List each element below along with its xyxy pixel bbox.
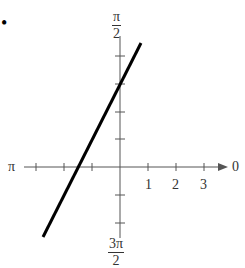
label-pi: π	[8, 160, 15, 174]
graph-line	[43, 43, 141, 237]
tick-label-3: 3	[200, 178, 207, 192]
label-zero: 0	[232, 160, 239, 174]
tick-label-2: 2	[172, 178, 179, 192]
label-3pi-over-2: 3π 2	[108, 237, 124, 268]
label-pi-over-2: π 2	[112, 10, 121, 41]
tick-label-1: 1	[145, 178, 152, 192]
arrow-right-icon	[218, 163, 228, 171]
